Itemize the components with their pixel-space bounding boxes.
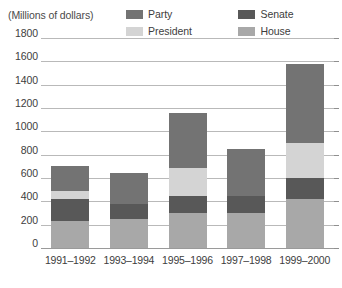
y-tick-label-1800: 1800 bbox=[0, 27, 38, 39]
axis-unit-caption: (Millions of dollars) bbox=[8, 9, 93, 21]
legend-entry-senate: Senate bbox=[238, 9, 326, 20]
bar-segment-house[interactable] bbox=[227, 213, 265, 248]
bar-segment-party[interactable] bbox=[51, 166, 89, 191]
y-tick-mark-1600 bbox=[334, 61, 339, 62]
y-tick-mark-0 bbox=[334, 248, 339, 249]
y-tick-label-400: 400 bbox=[0, 190, 38, 202]
bar-group[interactable] bbox=[51, 30, 89, 252]
y-tick-label-0: 0 bbox=[0, 237, 38, 249]
y-tick-label-1000: 1000 bbox=[0, 120, 38, 132]
y-tick-mark-800 bbox=[334, 155, 339, 156]
y-tick-mark-600 bbox=[334, 178, 339, 179]
y-tick-label-600: 600 bbox=[0, 167, 38, 179]
y-tick-mark-1000 bbox=[334, 131, 339, 132]
bar-group[interactable] bbox=[110, 30, 148, 252]
plot-area: 180016001400120010008006004002000 bbox=[8, 30, 334, 252]
bar-segment-house[interactable] bbox=[51, 221, 89, 248]
bar-segment-senate[interactable] bbox=[169, 196, 207, 214]
x-tick-label: 1995–1996 bbox=[162, 254, 213, 266]
bar-segment-house[interactable] bbox=[286, 199, 324, 248]
y-tick-label-1400: 1400 bbox=[0, 74, 38, 86]
y-tick-mark-1200 bbox=[334, 108, 339, 109]
x-tick-label: 1999–2000 bbox=[279, 254, 330, 266]
x-axis-labels: 1991–19921993–19941995–19961997–19981999… bbox=[41, 254, 334, 276]
bar-segment-senate[interactable] bbox=[51, 199, 89, 221]
bars-layer bbox=[41, 30, 334, 252]
y-tick-mark-1800 bbox=[334, 38, 339, 39]
legend-entry-party: Party bbox=[126, 9, 224, 20]
bar-segment-party[interactable] bbox=[169, 113, 207, 168]
legend-swatch-senate-icon bbox=[238, 10, 255, 19]
bar-group[interactable] bbox=[169, 30, 207, 252]
bar-group[interactable] bbox=[286, 30, 324, 252]
stacked-bar-chart: (Millions of dollars) Party Senate Presi… bbox=[0, 0, 342, 288]
y-tick-label-1200: 1200 bbox=[0, 97, 38, 109]
y-tick-mark-1400 bbox=[334, 85, 339, 86]
bar-segment-party[interactable] bbox=[286, 64, 324, 143]
bar-segment-president[interactable] bbox=[286, 143, 324, 178]
y-tick-label-1600: 1600 bbox=[0, 50, 38, 62]
bar-stack bbox=[286, 64, 324, 248]
y-tick-label-800: 800 bbox=[0, 144, 38, 156]
x-tick-label: 1991–1992 bbox=[45, 254, 96, 266]
x-tick-label: 1997–1998 bbox=[221, 254, 272, 266]
bar-segment-senate[interactable] bbox=[286, 178, 324, 199]
y-tick-mark-200 bbox=[334, 225, 339, 226]
bar-group[interactable] bbox=[227, 30, 265, 252]
legend-label-party: Party bbox=[148, 9, 172, 20]
bar-segment-president[interactable] bbox=[169, 168, 207, 196]
bar-stack bbox=[227, 149, 265, 248]
y-tick-mark-400 bbox=[334, 201, 339, 202]
bar-stack bbox=[110, 173, 148, 248]
x-tick-label: 1993–1994 bbox=[104, 254, 155, 266]
bar-segment-house[interactable] bbox=[169, 213, 207, 248]
bar-segment-senate[interactable] bbox=[110, 204, 148, 219]
bar-segment-president[interactable] bbox=[51, 191, 89, 199]
bar-segment-party[interactable] bbox=[110, 173, 148, 203]
legend-swatch-party-icon bbox=[126, 10, 143, 19]
bar-segment-senate[interactable] bbox=[227, 196, 265, 214]
legend-label-senate: Senate bbox=[260, 9, 293, 20]
y-tick-label-200: 200 bbox=[0, 214, 38, 226]
bar-segment-house[interactable] bbox=[110, 219, 148, 248]
bar-stack bbox=[169, 113, 207, 248]
bar-segment-party[interactable] bbox=[227, 149, 265, 196]
bar-stack bbox=[51, 166, 89, 248]
